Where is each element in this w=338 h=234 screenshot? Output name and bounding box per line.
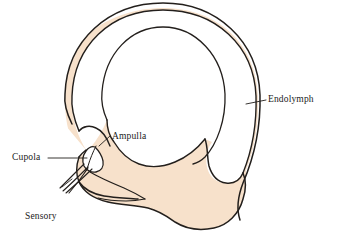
anatomy-figure: Endolymph Ampulla Cupola Sensory nerve xyxy=(0,0,338,234)
label-ampulla: Ampulla xyxy=(112,131,146,142)
label-cupola: Cupola xyxy=(12,152,40,163)
label-endolymph: Endolymph xyxy=(268,94,314,105)
label-sensory-nerve-line1: Sensory xyxy=(25,211,57,222)
leader-line-sensory-nerve xyxy=(62,179,72,187)
label-sensory-nerve: Sensory nerve xyxy=(25,189,57,234)
